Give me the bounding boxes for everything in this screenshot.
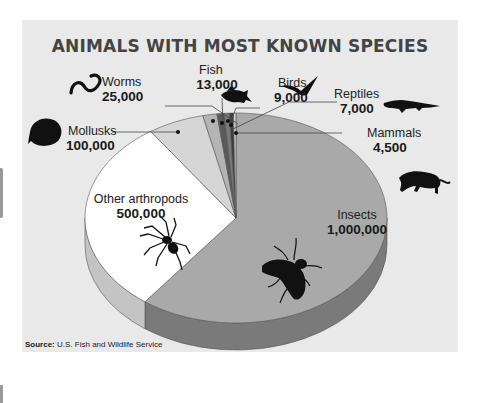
label-mammals: Mammals 4,500 [367,126,421,156]
page-edge-decoration [0,168,3,218]
label-worms: Worms 25,000 [102,75,143,105]
label-mammals-name: Mammals [367,126,421,140]
label-worms-name: Worms [102,75,143,89]
dot-mammals [234,131,238,135]
dot-birds [226,119,230,123]
label-insects-name: Insects [312,208,402,222]
label-fish-value: 13,000 [189,77,245,93]
label-mollusks: Mollusks 100,000 [68,124,117,154]
panther-icon [399,171,450,194]
page-edge-decoration [0,385,3,403]
source-label: Source: [25,340,55,349]
infographic-panel: ANIMALS WITH MOST KNOWN SPECIES Worms 25… [22,20,458,352]
label-fish-name: Fish [189,63,245,77]
label-insects: Insects 1,000,000 [312,208,402,238]
dot-mollusks [176,130,180,134]
label-birds: Birds 9,000 [278,76,308,106]
crocodile-icon [384,100,440,113]
label-worms-value: 25,000 [102,89,143,105]
label-reptiles-name: Reptiles [334,87,379,101]
label-other-arthropods-name: Other arthropods [86,192,196,206]
label-reptiles: Reptiles 7,000 [334,87,379,117]
dot-fish [220,121,224,125]
chart-title: ANIMALS WITH MOST KNOWN SPECIES [22,36,458,56]
label-birds-name: Birds [278,76,308,90]
source-text: U.S. Fish and Wildlife Service [57,340,162,349]
label-other-arthropods: Other arthropods 500,000 [86,192,196,222]
label-other-arthropods-value: 500,000 [86,206,196,222]
label-mollusks-name: Mollusks [68,124,117,138]
dot-worms [211,119,215,123]
label-insects-value: 1,000,000 [312,222,402,238]
clam-icon [28,119,61,146]
label-mammals-value: 4,500 [373,140,421,156]
label-fish: Fish 13,000 [189,63,245,93]
label-reptiles-value: 7,000 [340,101,379,117]
label-mollusks-value: 100,000 [66,138,117,154]
dot-reptiles [229,123,233,127]
source-note: Source: U.S. Fish and Wildlife Service [25,340,162,349]
worm-icon [71,75,100,93]
label-birds-value: 9,000 [274,90,308,106]
